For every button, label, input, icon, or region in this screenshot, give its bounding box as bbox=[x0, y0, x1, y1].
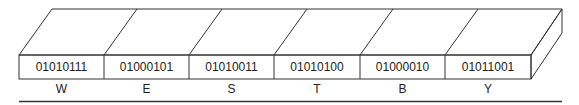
byte-cell-4: 01010100 bbox=[274, 56, 360, 79]
char-label-6: Y bbox=[445, 81, 531, 97]
byte-cell-6: 01011001 bbox=[445, 56, 531, 79]
byte-cell-2: 01000101 bbox=[104, 56, 189, 79]
char-label-4: T bbox=[274, 81, 360, 97]
char-label-1: W bbox=[19, 81, 104, 97]
char-label-3: S bbox=[189, 81, 274, 97]
byte-cell-3: 01010011 bbox=[189, 56, 274, 79]
byte-cell-5: 01000010 bbox=[360, 56, 445, 79]
char-label-2: E bbox=[104, 81, 189, 97]
right-face bbox=[531, 9, 562, 79]
char-label-5: B bbox=[360, 81, 445, 97]
byte-cell-1: 01010111 bbox=[19, 56, 104, 79]
